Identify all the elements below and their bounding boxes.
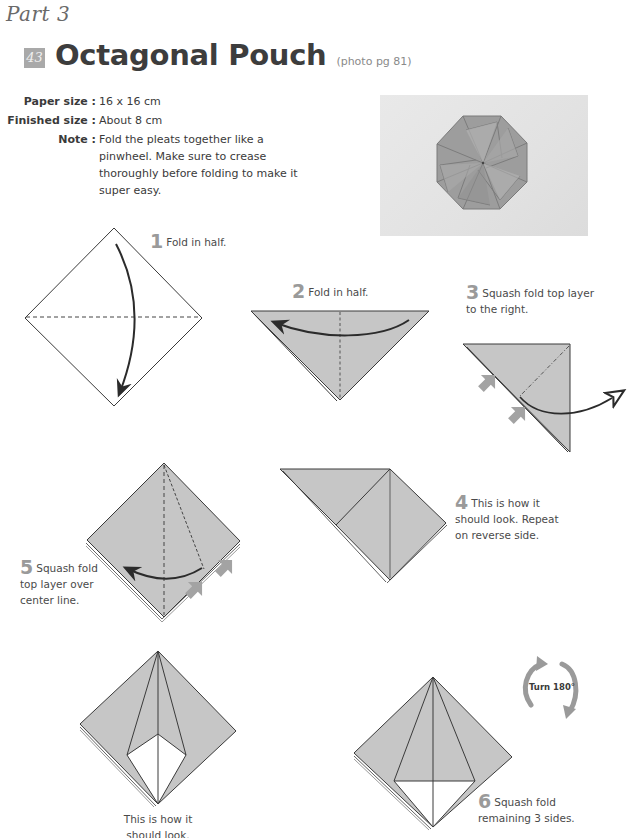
step1-label: 1Fold in half.	[150, 233, 226, 250]
diagram-canvas	[0, 0, 631, 838]
step-number: 5	[20, 556, 33, 578]
step-number: 3	[466, 281, 479, 303]
step-instruction: Squash fold remaining 3 sides.	[478, 796, 575, 824]
step2-label: 2Fold in half.	[292, 283, 368, 300]
step-number: 1	[150, 230, 163, 252]
step1-diagram	[25, 228, 202, 406]
step6-label: 6Squash fold remaining 3 sides.	[478, 793, 598, 826]
step4-label: 4This is how it should look. Repeat on r…	[455, 494, 565, 543]
step2-diagram	[251, 311, 429, 401]
step5-label: 5Squash fold top layer over center line.	[20, 559, 102, 608]
result-label: This is how it should look.	[118, 811, 198, 838]
step4-diagram	[280, 469, 447, 583]
step-instruction: This is how it should look. Repeat on re…	[455, 497, 559, 541]
step-instruction: Fold in half.	[166, 236, 226, 248]
step-instruction: Fold in half.	[308, 286, 368, 298]
step-number: 4	[455, 491, 468, 513]
step-instruction: Squash fold top layer to the right.	[466, 287, 594, 315]
step-number: 2	[292, 280, 305, 302]
step5-diagram	[86, 463, 240, 622]
photo-octagon	[437, 116, 527, 209]
step5-result-diagram	[80, 651, 236, 807]
step-number: 6	[478, 790, 491, 812]
step3-label: 3Squash fold top layer to the right.	[466, 284, 596, 317]
step3-diagram	[463, 344, 612, 452]
step-instruction: This is how it should look.	[124, 813, 193, 838]
turn-180-label: Turn 180°	[529, 682, 575, 692]
